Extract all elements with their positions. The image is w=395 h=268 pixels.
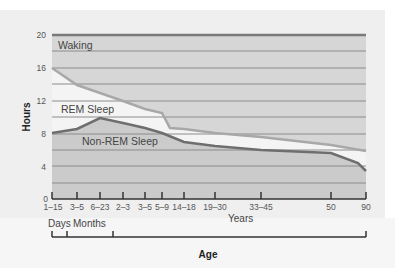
x-axis-title: Age: [199, 249, 218, 260]
x-tick-label: 3–5: [70, 202, 84, 212]
x-tick-label: 1–15: [44, 202, 63, 212]
months-label: Months: [73, 218, 106, 229]
y-tick-16: 16: [37, 63, 47, 73]
days-label: Days: [48, 218, 71, 229]
x-tick-label: 19–30: [203, 202, 227, 212]
y-tick-12: 12: [37, 96, 47, 106]
y-tick-4: 4: [41, 162, 46, 172]
years-label: Years: [228, 213, 253, 224]
x-tick-label: 14–18: [172, 202, 196, 212]
y-tick-20: 20: [37, 30, 47, 40]
x-tick-label: 6–23: [91, 202, 110, 212]
nonrem-sleep-label: Non-REM Sleep: [82, 135, 158, 147]
waking-label: Waking: [58, 39, 93, 51]
x-tick-label: 2–3: [116, 202, 130, 212]
x-tick-label: 50: [326, 202, 336, 212]
sleep-chart: 20 16 12 8 4 0 Hours 1–15 3–5 6–23 2–3 3…: [0, 0, 395, 268]
y-axis-title: Hours: [21, 102, 32, 131]
x-tick-label: 3–5: [138, 202, 152, 212]
x-tick-label: 33–45: [249, 202, 273, 212]
age-group-brackets: [52, 231, 366, 237]
y-tick-8: 8: [41, 129, 46, 139]
x-tick-label: 5–9: [155, 202, 169, 212]
rem-sleep-label: REM Sleep: [61, 103, 114, 115]
x-tick-label: 90: [361, 202, 371, 212]
